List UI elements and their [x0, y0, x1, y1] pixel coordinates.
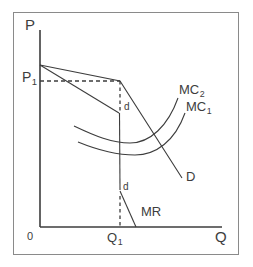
- y-axis-label: P: [25, 17, 35, 32]
- demand-curve-D: [40, 65, 182, 178]
- price-level-subscript: 1: [32, 76, 37, 87]
- mc1-curve-label: MC1: [186, 100, 212, 116]
- kinked-demand-curve-figure: [0, 0, 253, 267]
- demand-curve-label: D: [186, 170, 195, 183]
- dd-curve-upper-branch: [40, 65, 119, 113]
- price-level-base: P: [22, 69, 31, 85]
- dd-upper-label: d: [124, 102, 130, 112]
- quantity-level-subscript: 1: [118, 237, 123, 247]
- mc1-label-base: MC: [186, 99, 206, 114]
- price-level-label: P1: [22, 70, 37, 87]
- mr-lower-segment: [120, 191, 136, 227]
- origin-label: 0: [27, 231, 33, 242]
- mc2-curve-label: MC2: [179, 83, 205, 99]
- mc2-label-base: MC: [179, 82, 199, 97]
- mc1-curve: [78, 113, 185, 155]
- diagram-screenshot: P Q 0 P1 Q1 MC2 MC1 D MR d d: [0, 0, 253, 267]
- mc2-label-subscript: 2: [200, 89, 205, 99]
- quantity-level-base: Q: [107, 230, 117, 245]
- x-axis-label: Q: [215, 229, 227, 244]
- mr-vertical-discontinuity: [120, 113, 121, 190]
- quantity-level-label: Q1: [107, 231, 123, 247]
- mc1-label-subscript: 1: [207, 106, 212, 116]
- dd-lower-label: d: [123, 182, 129, 192]
- marginal-revenue-label: MR: [141, 205, 161, 218]
